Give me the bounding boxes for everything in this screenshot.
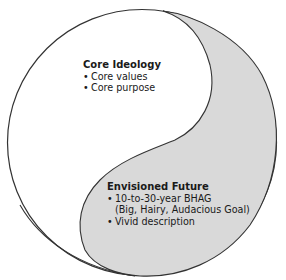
bhag-line: 10-to-30-year BHAG (115, 193, 212, 204)
envisioned-future-item: 10-to-30-year BHAG (107, 193, 250, 205)
core-ideology-title: Core Ideology (83, 59, 161, 71)
core-ideology-block: Core Ideology Core values Core purpose (83, 59, 161, 94)
envisioned-future-title: Envisioned Future (107, 181, 250, 193)
yin-yang-diagram (0, 0, 286, 280)
core-ideology-list: Core values Core purpose (83, 71, 161, 94)
envisioned-future-item: Vivid description (107, 216, 250, 228)
bhag-expansion: (Big, Hairy, Audacious Goal) (107, 204, 250, 216)
envisioned-future-list: 10-to-30-year BHAG (Big, Hairy, Audaciou… (107, 193, 250, 228)
envisioned-future-block: Envisioned Future 10-to-30-year BHAG (Bi… (107, 181, 250, 227)
vivid-description-line: Vivid description (115, 216, 195, 227)
core-ideology-item: Core purpose (83, 82, 161, 94)
core-ideology-item: Core values (83, 71, 161, 83)
